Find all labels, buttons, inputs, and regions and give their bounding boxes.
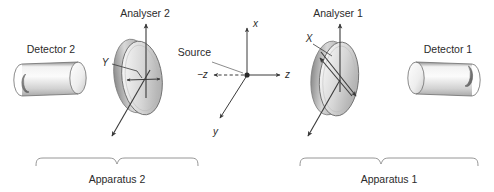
source-dot-icon [244,72,249,77]
polarizer-disc-icon [110,37,167,117]
z-negative-axis-label: −z [197,69,208,80]
apparatus-2-label: Apparatus 2 [89,173,146,185]
cylinder-rim-right [472,64,480,96]
analyser-2-group: Analyser 2 Y [102,7,170,136]
cylinder-icon [408,62,480,96]
z-positive-axis-label: z [284,69,290,80]
detector-2-label: Detector 2 [27,43,76,55]
apparatus-1-label: Apparatus 1 [361,173,418,185]
cylinder-cap-left [408,62,424,94]
source-axes-group: x z −z y Source [178,18,290,137]
apparatus-2-group: Apparatus 2 [36,158,198,185]
analyser-2-label: Analyser 2 [120,7,170,19]
y-axis-label: y [212,126,219,137]
brace-icon [36,158,198,166]
detector-1-group: Detector 1 [408,43,480,96]
cylinder-rim-left [14,64,22,96]
cylinder-icon [14,62,86,96]
detector-2-group: Detector 2 [14,43,86,96]
analyser-1-label: Analyser 1 [313,7,363,19]
source-leader-line [212,62,243,73]
disc-2-axis-label: Y [102,57,110,68]
x-axis-label: x [252,18,259,29]
source-label: Source [178,46,211,58]
disc-1-axis-label: X [305,33,313,44]
diagram-canvas: Detector 2 Analyser 2 [0,0,494,192]
polarizer-disc-icon [308,39,362,117]
y-axis-arrow [220,77,246,118]
detector-1-label: Detector 1 [424,43,473,55]
epr-apparatus-diagram: Detector 2 Analyser 2 [0,0,494,192]
brace-icon [300,158,478,166]
cylinder-cap-right [70,62,86,94]
apparatus-1-group: Apparatus 1 [300,158,478,185]
analyser-1-group: Analyser 1 X [305,7,363,136]
